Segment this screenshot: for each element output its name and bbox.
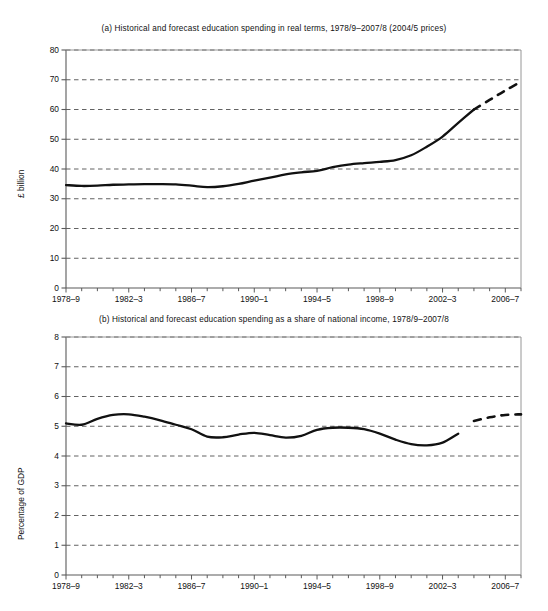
y-tick-label: 70	[33, 74, 59, 84]
x-tick-label: 2002–3	[413, 581, 473, 591]
chart-b-plot-area	[0, 305, 548, 611]
y-tick-label: 0	[33, 283, 59, 293]
y-tick-label: 30	[33, 193, 59, 203]
y-tick-label: 40	[33, 164, 59, 174]
y-tick-label: 4	[33, 451, 59, 461]
chart-b-y-axis-title: Percentage of GDP	[16, 467, 26, 540]
forecast-line	[474, 82, 521, 110]
x-tick-label: 2002–3	[413, 294, 473, 304]
y-tick-label: 3	[33, 480, 59, 490]
forecast-line	[474, 414, 521, 421]
historical-line	[66, 110, 474, 188]
x-tick-label: 1978–9	[36, 581, 96, 591]
x-tick-label: 1994–5	[287, 294, 347, 304]
figure-bottom-caption	[64, 604, 534, 611]
historical-line	[66, 414, 458, 445]
x-tick-label: 1998–9	[350, 581, 410, 591]
x-tick-label: 1986–7	[162, 581, 222, 591]
chart-a-svg	[0, 0, 548, 305]
y-tick-label: 7	[33, 361, 59, 371]
x-tick-label: 1982–3	[99, 294, 159, 304]
x-tick-label: 1986–7	[162, 294, 222, 304]
y-tick-label: 20	[33, 223, 59, 233]
y-tick-label: 50	[33, 134, 59, 144]
chart-b-svg	[0, 305, 548, 611]
y-tick-label: 10	[33, 253, 59, 263]
y-tick-label: 1	[33, 540, 59, 550]
y-tick-label: 2	[33, 510, 59, 520]
y-tick-label: 6	[33, 391, 59, 401]
x-tick-label: 1994–5	[287, 581, 347, 591]
y-tick-label: 5	[33, 421, 59, 431]
y-tick-label: 80	[33, 45, 59, 55]
x-tick-label: 1998–9	[350, 294, 410, 304]
figure-a-real-terms: (a) Historical and forecast education sp…	[0, 0, 548, 305]
y-tick-label: 60	[33, 104, 59, 114]
chart-a-plot-area	[0, 0, 548, 306]
x-tick-label: 1982–3	[99, 581, 159, 591]
y-tick-label: 8	[33, 332, 59, 342]
x-tick-label: 1990–1	[224, 581, 284, 591]
x-tick-label: 1978–9	[36, 294, 96, 304]
x-tick-label: 2006–7	[475, 581, 535, 591]
x-tick-label: 2006–7	[475, 294, 535, 304]
figure-b-share-of-gdp: (b) Historical and forecast education sp…	[0, 305, 548, 611]
y-tick-label: 0	[33, 570, 59, 580]
x-tick-label: 1990–1	[224, 294, 284, 304]
